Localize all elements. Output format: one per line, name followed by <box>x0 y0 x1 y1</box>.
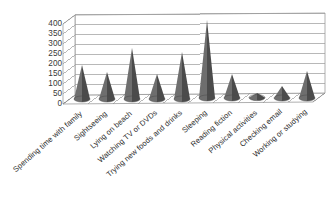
x-tick-label: Spending time with family <box>11 109 84 174</box>
cone-chart: 050100150200250300350400 Spending time w… <box>0 0 336 210</box>
x-axis-labels: Spending time with familySightseeingLyin… <box>0 0 336 210</box>
